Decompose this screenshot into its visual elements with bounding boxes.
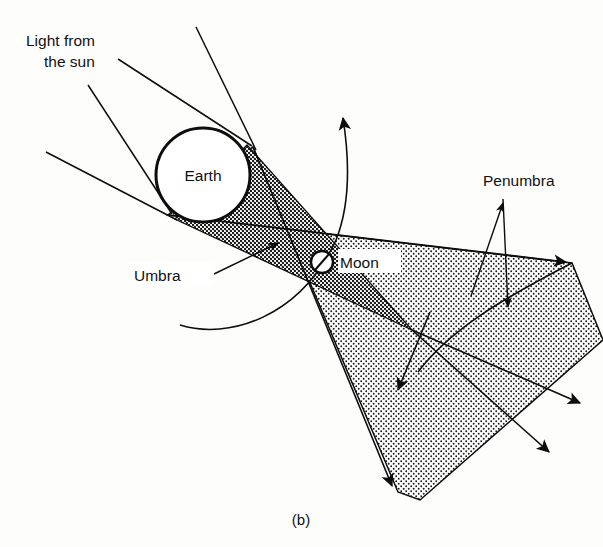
- eclipse-diagram-figure: Earth Moon Light from the sun Umbra Penu…: [0, 0, 603, 547]
- umbra-label: Umbra: [134, 267, 181, 284]
- earth-label: Earth: [184, 167, 221, 184]
- light-from-sun-label-line2: the sun: [44, 53, 95, 70]
- penumbra-label: Penumbra: [483, 172, 555, 189]
- moon-body: Moon: [311, 249, 401, 273]
- light-from-sun-callout: Light from the sun: [26, 32, 95, 70]
- figure-caption: (b): [292, 511, 310, 528]
- light-from-sun-label-line1: Light from: [26, 32, 95, 49]
- moon-label: Moon: [340, 254, 379, 271]
- eclipse-diagram-canvas: Earth Moon Light from the sun Umbra Penu…: [0, 0, 603, 547]
- earth-body: Earth: [156, 128, 250, 222]
